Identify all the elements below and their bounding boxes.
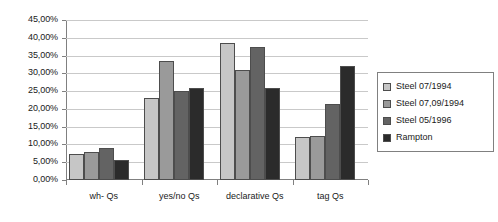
y-axis-tick-label: 40,00% xyxy=(0,33,58,42)
bar xyxy=(99,148,114,180)
legend-item[interactable]: Steel 07,09/1994 xyxy=(383,95,489,112)
bar xyxy=(69,154,84,180)
gridline xyxy=(66,109,368,110)
y-axis-tick-label: 30,00% xyxy=(0,68,58,77)
bar xyxy=(295,137,310,180)
x-axis-tick-label: tag Qs xyxy=(293,191,369,201)
bar xyxy=(189,88,204,180)
x-axis-tick-label: wh- Qs xyxy=(66,191,142,201)
gridline xyxy=(66,38,368,39)
bar xyxy=(325,104,340,180)
x-axis-tick-label: declarative Qs xyxy=(217,191,293,201)
bar xyxy=(174,91,189,180)
y-axis-tick-label: 0,00% xyxy=(0,175,58,184)
x-axis-tick xyxy=(293,180,294,185)
gridline xyxy=(66,73,368,74)
legend-item[interactable]: Steel 07/1994 xyxy=(383,78,489,95)
legend: Steel 07/1994 Steel 07,09/1994 Steel 05/… xyxy=(377,72,494,152)
bar xyxy=(340,66,355,180)
legend-swatch-icon xyxy=(383,134,391,142)
y-axis-tick-label: 25,00% xyxy=(0,86,58,95)
legend-swatch-icon xyxy=(383,83,391,91)
y-axis-tick-label: 10,00% xyxy=(0,139,58,148)
legend-label: Steel 05/1996 xyxy=(396,116,452,125)
x-axis-tick xyxy=(142,180,143,185)
bar xyxy=(114,160,129,180)
bar xyxy=(235,70,250,180)
x-axis-tick xyxy=(368,180,369,185)
bar xyxy=(220,43,235,180)
y-axis-tick-label: 5,00% xyxy=(0,157,58,166)
gridline xyxy=(66,20,368,21)
bar xyxy=(310,136,325,180)
bar xyxy=(144,98,159,180)
legend-item[interactable]: Rampton xyxy=(383,129,489,146)
gridline xyxy=(66,127,368,128)
gridline xyxy=(66,56,368,57)
bar xyxy=(265,88,280,180)
legend-label: Steel 07/1994 xyxy=(396,82,452,91)
bar-chart: 0,00%5,00%10,00%15,00%20,00%25,00%30,00%… xyxy=(0,0,498,222)
legend-swatch-icon xyxy=(383,117,391,125)
bar xyxy=(159,61,174,180)
legend-item[interactable]: Steel 05/1996 xyxy=(383,112,489,129)
x-axis-tick xyxy=(217,180,218,185)
y-axis-tick-label: 45,00% xyxy=(0,15,58,24)
y-axis-tick-label: 20,00% xyxy=(0,104,58,113)
x-axis-tick-label: yes/no Qs xyxy=(142,191,218,201)
y-axis-tick-label: 15,00% xyxy=(0,122,58,131)
bar xyxy=(250,47,265,180)
y-axis-tick-label: 35,00% xyxy=(0,51,58,60)
legend-swatch-icon xyxy=(383,100,391,108)
x-axis-tick xyxy=(66,180,67,185)
legend-label: Steel 07,09/1994 xyxy=(396,99,464,108)
legend-label: Rampton xyxy=(396,133,433,142)
gridline xyxy=(66,91,368,92)
bar xyxy=(84,152,99,180)
